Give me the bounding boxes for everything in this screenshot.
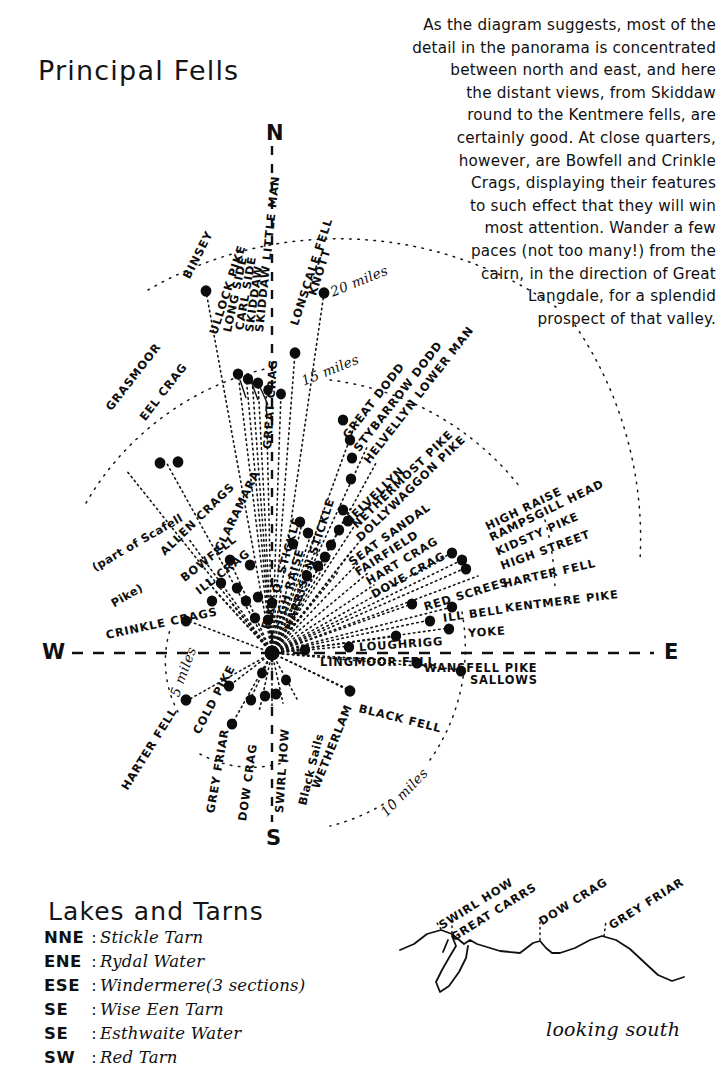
intro-line: Crags, displaying their features xyxy=(296,172,716,195)
lake-direction: ESE xyxy=(44,976,88,995)
lake-direction: NNE xyxy=(44,928,88,947)
lake-row: SE:Wise Een Tarn xyxy=(44,1000,344,1024)
intro-line: certainly good. At close quarters, xyxy=(296,127,716,150)
lake-row: NNE:Stickle Tarn xyxy=(44,928,344,952)
looking-south-caption: looking south xyxy=(546,1018,680,1040)
lake-direction: SE xyxy=(44,1024,88,1043)
intro-line: prospect of that valley. xyxy=(296,308,716,331)
compass-north: N xyxy=(266,121,284,145)
lake-separator: : xyxy=(88,928,100,947)
lake-name: Esthwaite Water xyxy=(100,1024,241,1043)
lake-row: SE:Esthwaite Water xyxy=(44,1024,344,1048)
lake-direction: ENE xyxy=(44,952,88,971)
ring-15-miles xyxy=(86,369,265,503)
lake-name: Stickle Tarn xyxy=(100,928,203,947)
intro-line: paces (not too many!) from the xyxy=(296,240,716,263)
intro-line: As the diagram suggests, most of the xyxy=(296,14,716,37)
lake-separator: : xyxy=(88,1048,100,1067)
lake-separator: : xyxy=(88,976,100,995)
compass-south: S xyxy=(266,826,281,850)
skyline-ridge xyxy=(400,930,684,981)
compass-west: W xyxy=(42,640,65,664)
lake-separator: : xyxy=(88,1024,100,1043)
ring-20-miles-b xyxy=(575,325,641,560)
intro-line: however, are Bowfell and Crinkle xyxy=(296,150,716,173)
intro-line: most attention. Wander a few xyxy=(296,217,716,240)
lake-separator: : xyxy=(88,952,100,971)
lake-separator: : xyxy=(88,1000,100,1019)
skyline-gully xyxy=(443,940,448,952)
compass-east: E xyxy=(664,640,678,664)
fell-label: YOKE xyxy=(468,623,507,640)
lake-row: ENE:Rydal Water xyxy=(44,952,344,976)
lakes-and-tarns-title: Lakes and Tarns xyxy=(48,897,264,926)
fell-label: SALLOWS xyxy=(470,673,538,687)
intro-line: the distant views, from Skiddaw xyxy=(296,82,716,105)
lake-direction: SE xyxy=(44,1000,88,1019)
intro-line: to such effect that they will win xyxy=(296,195,716,218)
lakes-and-tarns-list: NNE:Stickle TarnENE:Rydal WaterESE:Winde… xyxy=(44,928,344,1072)
lake-name: Rydal Water xyxy=(100,952,204,971)
intro-line: detail in the panorama is concentrated xyxy=(296,37,716,60)
intro-line: round to the Kentmere fells, are xyxy=(296,104,716,127)
panorama-skyline xyxy=(400,930,684,992)
lake-direction: SW xyxy=(44,1048,88,1067)
lake-row: ESE:Windermere (3 sections) xyxy=(44,976,344,1000)
diagram-sheet: Principal Fells As the diagram suggests,… xyxy=(0,0,723,1090)
lake-note: (3 sections) xyxy=(206,976,305,995)
page-title: Principal Fells xyxy=(38,55,239,86)
lake-name: Wise Een Tarn xyxy=(100,1000,224,1019)
lake-row: SW:Red Tarn xyxy=(44,1048,344,1072)
intro-line: between north and east, and here xyxy=(296,59,716,82)
lake-name: Red Tarn xyxy=(100,1048,178,1067)
fell-label: LINGMOOR FELL xyxy=(320,655,436,669)
lake-name: Windermere xyxy=(100,976,206,995)
